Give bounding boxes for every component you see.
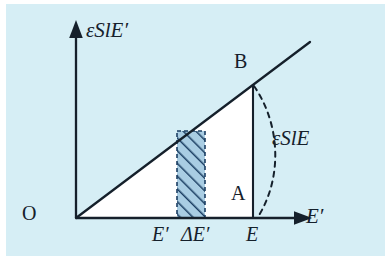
point-b-label: B (234, 51, 247, 71)
hatched-strip-delta-eprime (177, 131, 205, 218)
origin-label: O (22, 203, 36, 223)
esle-annotation-label: εSlE (272, 128, 309, 149)
point-a-label: A (231, 183, 245, 203)
x-tick-label-e: E (246, 224, 258, 244)
figure-root: εSlE′ E′ O B A E′ ΔE′ E εSlE (0, 0, 391, 271)
x-axis-label: E′ (306, 206, 323, 227)
x-tick-label-e-prime: E′ (152, 224, 169, 244)
x-tick-label-delta-e-prime: ΔE′ (181, 224, 209, 244)
y-axis-label: εSlE′ (86, 20, 128, 41)
